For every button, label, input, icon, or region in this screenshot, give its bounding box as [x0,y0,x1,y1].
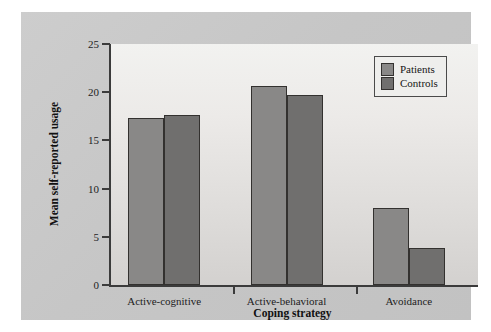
bar-chart-figure: Mean self-reported usage Coping strategy… [0,0,491,332]
y-axis-tick [102,91,110,93]
x-axis-tick [356,287,358,294]
x-axis-category-label: Active-cognitive [127,296,201,307]
legend-item-controls: Controls [381,77,438,90]
legend: Patients Controls [374,56,447,97]
x-axis-category-label: Active-behavioral [247,296,326,307]
legend-swatch-controls-icon [381,77,394,90]
y-axis-tick [102,188,110,190]
y-axis-tick-label: 5 [94,231,100,242]
x-axis-title: Coping strategy [109,308,476,320]
y-axis-tick [102,236,110,238]
bar-controls-active-cognitive [164,115,200,285]
y-axis-tick [102,139,110,141]
bar-patients-active-cognitive [128,118,164,285]
y-axis-tick-label: 25 [88,39,99,50]
y-axis-tick [102,43,110,45]
y-axis-tick-label: 15 [88,135,99,146]
y-axis-tick [102,284,110,286]
legend-label-patients: Patients [400,64,435,75]
bar-patients-avoidance [373,208,409,285]
bar-controls-active-behavioral [287,95,323,285]
y-axis-tick-label: 10 [88,183,99,194]
y-axis-tick-label: 0 [94,280,100,291]
bar-patients-active-behavioral [251,86,287,285]
figure-panel: Mean self-reported usage Coping strategy… [21,12,471,320]
legend-swatch-patients-icon [381,63,394,76]
y-axis-tick-label: 20 [88,87,99,98]
legend-item-patients: Patients [381,63,438,76]
y-axis-title: Mean self-reported usage [49,102,61,226]
legend-label-controls: Controls [400,78,438,89]
bar-controls-avoidance [409,248,445,285]
x-axis-category-label: Avoidance [385,296,432,307]
x-axis-tick [233,287,235,294]
